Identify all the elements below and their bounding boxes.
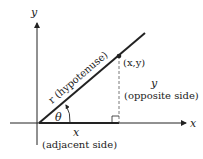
adjacent-var-label: x — [73, 126, 80, 139]
angle-arc — [66, 105, 70, 123]
hypotenuse — [39, 33, 145, 123]
opposite-desc-label: (opposite side) — [124, 90, 199, 101]
point-marker — [117, 54, 122, 59]
x-axis-label: x — [190, 117, 197, 130]
y-axis-label: y — [30, 6, 38, 19]
point-label: (x,y) — [123, 57, 145, 68]
hypotenuse-label: r (hypotenuse) — [46, 49, 110, 106]
right-triangle-diagram: y x θ (x,y) r (hypotenuse) y (opposite s… — [0, 0, 203, 159]
right-angle-marker — [112, 116, 119, 123]
adjacent-desc-label: (adjacent side) — [42, 139, 117, 150]
opposite-var-label: y — [150, 77, 158, 90]
theta-label: θ — [55, 111, 62, 124]
